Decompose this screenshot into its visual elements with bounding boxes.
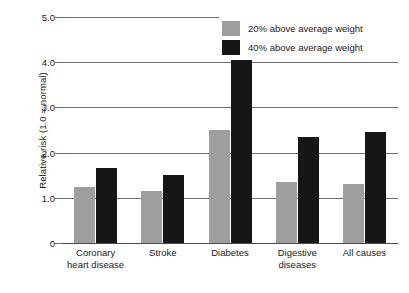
x-axis-labels: Coronaryheart diseaseStrokeDiabetesDiges… xyxy=(62,247,398,271)
bar xyxy=(163,175,184,243)
bar-group xyxy=(129,17,196,243)
bar xyxy=(298,137,319,243)
y-axis-title: Relative risk (1.0 = normal) xyxy=(37,16,48,246)
y-tick-mark xyxy=(55,17,62,18)
y-tick-label: 1.0 xyxy=(42,192,55,203)
bar xyxy=(74,187,95,244)
x-axis-label: Stroke xyxy=(129,247,196,271)
bar xyxy=(365,132,386,243)
legend-item: 40% above average weight xyxy=(222,38,399,57)
bar-group xyxy=(62,17,129,243)
legend-swatch-icon xyxy=(222,40,240,55)
bar xyxy=(141,191,162,243)
y-tick-mark xyxy=(55,198,62,199)
y-tick-label: 5.0 xyxy=(42,12,55,23)
bar-pair xyxy=(129,17,196,243)
legend-label: 20% above average weight xyxy=(248,23,363,34)
x-axis-label: Diabetes xyxy=(196,247,263,271)
gridline xyxy=(62,243,398,244)
legend-swatch-icon xyxy=(222,21,240,36)
y-tick-mark xyxy=(55,62,62,63)
bar-pair xyxy=(62,17,129,243)
legend-label: 40% above average weight xyxy=(248,42,363,53)
x-axis-label: Digestivediseases xyxy=(264,247,331,271)
bar xyxy=(276,182,297,243)
y-tick-label: 2.0 xyxy=(42,147,55,158)
y-tick-mark xyxy=(55,153,62,154)
y-tick-label: 4.0 xyxy=(42,57,55,68)
y-tick-label: 0 xyxy=(50,238,55,249)
y-tick-mark xyxy=(55,107,62,108)
y-tick-mark xyxy=(55,243,62,244)
legend-item: 20% above average weight xyxy=(222,19,399,38)
bar xyxy=(96,168,117,243)
bar xyxy=(209,130,230,243)
y-tick-label: 3.0 xyxy=(42,102,55,113)
bar xyxy=(343,184,364,243)
x-axis-label: All causes xyxy=(331,247,398,271)
legend: 20% above average weight 40% above avera… xyxy=(219,16,401,60)
x-axis-label: Coronaryheart disease xyxy=(62,247,129,271)
bar-chart: Relative risk (1.0 = normal) 01.02.03.04… xyxy=(0,0,409,293)
